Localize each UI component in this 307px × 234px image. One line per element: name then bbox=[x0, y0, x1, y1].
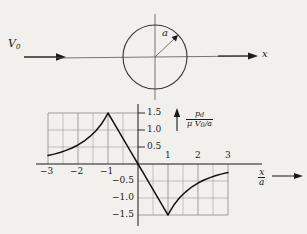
x-axis-label-top: x bbox=[262, 48, 268, 59]
xtick-label-minus2: −2 bbox=[70, 166, 83, 176]
xtick-label-3: 3 bbox=[225, 150, 231, 160]
x-axis-caption: x a bbox=[258, 168, 265, 188]
upper-left-grid bbox=[48, 113, 138, 164]
radius-label: a bbox=[162, 27, 168, 38]
y-axis-caption: pd μ V0/a bbox=[186, 110, 213, 129]
x-axis-caption-denominator: a bbox=[258, 177, 265, 187]
xtick-label-minus1: −1 bbox=[100, 166, 113, 176]
y-axis-caption-arrow bbox=[174, 108, 180, 131]
y-tick-marks bbox=[138, 113, 145, 147]
ytick-label-3: 0.5 bbox=[147, 141, 161, 151]
ytick-label-5: −1.0 bbox=[112, 192, 134, 202]
x-axis-caption-numerator: x bbox=[258, 168, 265, 177]
x-axis-caption-arrow bbox=[272, 173, 303, 179]
ytick-label-1: 1.5 bbox=[147, 107, 161, 117]
freestream-arrow-head bbox=[56, 53, 66, 61]
xtick-label-minus3: −3 bbox=[40, 166, 53, 176]
ytick-label-2: 1.0 bbox=[147, 124, 161, 134]
lower-right-grid bbox=[138, 164, 228, 215]
ytick-label-6: −1.5 bbox=[112, 209, 134, 219]
radius-arrow-shaft bbox=[155, 39, 174, 57]
x-axis-arrow-head bbox=[248, 53, 258, 60]
figure-canvas bbox=[0, 0, 307, 234]
ytick-label-4: −0.5 bbox=[112, 175, 134, 185]
xtick-label-2: 2 bbox=[195, 150, 201, 160]
y-axis-caption-denominator: μ V0/a bbox=[186, 119, 213, 129]
xtick-label-1: 1 bbox=[165, 150, 171, 160]
chart-group bbox=[36, 104, 303, 226]
top-diagram-group bbox=[24, 14, 258, 100]
y-axis-caption-numerator: pd bbox=[186, 110, 213, 119]
freestream-velocity-label: V0 bbox=[8, 37, 20, 51]
